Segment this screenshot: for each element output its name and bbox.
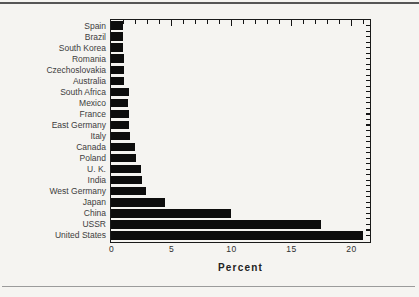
category-label: Brazil (85, 33, 106, 42)
bar-spain (111, 21, 123, 29)
bar-italy (111, 132, 130, 140)
category-label: Poland (80, 154, 106, 163)
y-axis-tick (366, 64, 370, 65)
y-axis-tick (366, 158, 370, 159)
x-axis-minor-tick (231, 20, 232, 26)
bar-poland (111, 154, 136, 162)
y-axis-tick (366, 102, 370, 103)
y-axis-tick (366, 141, 370, 142)
y-axis-tick (366, 218, 370, 219)
x-axis-minor-tick (279, 20, 280, 24)
bar-west-germany (111, 187, 146, 195)
y-axis-tick (366, 80, 370, 81)
category-label: Czechoslovakia (46, 66, 106, 75)
category-label: USSR (82, 220, 106, 229)
x-tick-label: 5 (159, 244, 185, 254)
y-axis-tick (366, 185, 370, 186)
category-label: France (80, 110, 106, 119)
category-label: Romania (72, 55, 106, 64)
category-label: South Korea (59, 44, 106, 53)
y-axis-tick (366, 207, 370, 208)
y-axis-tick (366, 113, 370, 114)
y-axis-tick (366, 229, 370, 230)
bar-czechoslovakia (111, 66, 124, 74)
category-label: West Germany (49, 187, 106, 196)
category-label: China (84, 209, 106, 218)
x-tick-label: 15 (279, 244, 305, 254)
x-axis-minor-tick (303, 20, 304, 24)
y-axis-tick (366, 75, 370, 76)
category-label: East Germany (52, 121, 106, 130)
x-axis-minor-tick (195, 20, 196, 24)
category-label: Spain (84, 22, 106, 31)
bar-united-states (111, 231, 363, 239)
y-axis-tick (366, 69, 370, 70)
x-axis-title: Percent (111, 262, 370, 273)
y-axis-tick (366, 91, 370, 92)
y-axis-tick (366, 53, 370, 54)
y-axis-tick (366, 213, 370, 214)
x-axis-minor-tick (339, 20, 340, 24)
y-axis-tick (366, 174, 370, 175)
x-axis-minor-tick (219, 20, 220, 24)
y-axis-tick (366, 124, 370, 125)
bar-u-k (111, 165, 141, 173)
x-axis-minor-tick (255, 20, 256, 24)
bottom-rule (2, 286, 415, 287)
x-axis-minor-tick (183, 20, 184, 24)
y-axis-tick (366, 130, 370, 131)
bar-south-korea (111, 43, 123, 51)
x-axis-minor-tick (363, 20, 364, 24)
x-axis-minor-tick (171, 20, 172, 26)
y-axis-tick (366, 42, 370, 43)
bar-france (111, 110, 129, 118)
y-axis-tick (366, 58, 370, 59)
x-axis-minor-tick (207, 20, 208, 24)
bar-brazil (111, 32, 123, 40)
bar-romania (111, 54, 124, 62)
y-axis-tick (366, 119, 370, 120)
bar-china (111, 209, 231, 217)
x-axis-minor-tick (315, 20, 316, 24)
y-axis-tick (366, 25, 370, 26)
bar-japan (111, 198, 165, 206)
y-axis-tick (366, 191, 370, 192)
y-axis-tick (366, 31, 370, 32)
category-label: United States (55, 231, 106, 240)
x-axis-minor-tick (123, 20, 124, 24)
bar-ussr (111, 220, 321, 228)
x-tick-label: 10 (219, 244, 245, 254)
plot-area (110, 19, 371, 243)
x-axis-minor-tick (327, 20, 328, 24)
x-axis-minor-tick (243, 20, 244, 24)
y-axis-tick (366, 152, 370, 153)
page: SpainBrazilSouth KoreaRomaniaCzechoslova… (0, 0, 419, 297)
top-rule (0, 2, 419, 4)
category-label: Japan (83, 198, 106, 207)
x-axis-minor-tick (159, 20, 160, 24)
y-axis-tick (366, 180, 370, 181)
x-tick-label: 20 (339, 244, 365, 254)
y-axis-tick (366, 224, 370, 225)
x-axis-minor-tick (291, 20, 292, 26)
x-tick-label: 0 (99, 244, 125, 254)
y-axis-tick (366, 202, 370, 203)
y-axis-tick (366, 108, 370, 109)
y-axis-tick (366, 36, 370, 37)
y-axis-tick (366, 47, 370, 48)
bar-canada (111, 143, 135, 151)
y-axis-tick (366, 235, 370, 236)
bar-south-africa (111, 88, 129, 96)
category-label: South Africa (60, 88, 106, 97)
category-label: Mexico (79, 99, 106, 108)
bar-east-germany (111, 121, 129, 129)
category-label: India (88, 176, 106, 185)
y-axis-tick (366, 147, 370, 148)
category-label: Italy (90, 132, 106, 141)
x-axis-minor-tick (267, 20, 268, 24)
bar-india (111, 176, 142, 184)
y-axis-tick (366, 169, 370, 170)
y-axis-tick (366, 196, 370, 197)
y-axis-tick (366, 97, 370, 98)
bar-australia (111, 77, 124, 85)
